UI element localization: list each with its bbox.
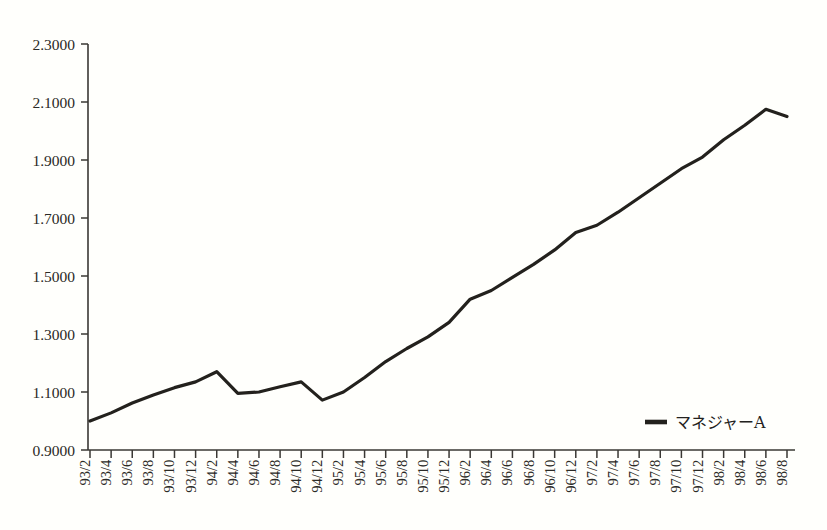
x-tick-label: 97/10 <box>668 460 684 493</box>
x-tick-label: 95/4 <box>352 459 368 486</box>
y-tick-label: 2.1000 <box>32 94 75 111</box>
x-tick-label: 96/10 <box>542 460 558 493</box>
x-tick-label: 94/8 <box>267 460 283 486</box>
x-tick-label: 98/2 <box>711 460 727 486</box>
chart-canvas: 0.90001.10001.30001.50001.70001.90002.10… <box>0 0 827 530</box>
x-tick-label: 96/12 <box>563 460 579 493</box>
x-tick-label: 96/8 <box>521 460 537 486</box>
x-tick-label: 97/8 <box>647 460 663 486</box>
x-tick-label: 97/4 <box>605 459 621 486</box>
x-tick-label: 93/10 <box>161 460 177 493</box>
y-tick-label: 1.1000 <box>32 384 75 401</box>
x-tick-label: 93/4 <box>98 459 114 486</box>
x-tick-label: 94/2 <box>204 460 220 486</box>
x-tick-label: 93/2 <box>77 460 93 486</box>
x-tick-label: 93/8 <box>140 460 156 486</box>
x-tick-label: 93/12 <box>183 460 199 493</box>
x-tick-label: 94/10 <box>288 460 304 493</box>
x-tick-label: 93/6 <box>119 460 135 486</box>
y-tick-label: 1.7000 <box>32 210 75 227</box>
x-tick-label: 94/12 <box>309 460 325 493</box>
x-tick-label: 98/8 <box>774 460 790 486</box>
x-tick-label: 95/10 <box>415 460 431 493</box>
y-tick-label: 2.3000 <box>32 36 75 53</box>
x-tick-label: 95/2 <box>330 460 346 486</box>
x-tick-label: 94/4 <box>225 459 241 486</box>
line-chart: 0.90001.10001.30001.50001.70001.90002.10… <box>0 0 827 530</box>
x-tick-label: 97/6 <box>626 460 642 486</box>
x-tick-label: 95/12 <box>436 460 452 493</box>
x-tick-label: 96/4 <box>478 459 494 486</box>
x-tick-label: 95/8 <box>394 460 410 486</box>
x-tick-label: 95/6 <box>373 460 389 486</box>
x-tick-label: 96/2 <box>457 460 473 486</box>
y-tick-label: 1.5000 <box>32 268 75 285</box>
x-tick-label: 97/2 <box>584 460 600 486</box>
x-tick-label: 97/12 <box>690 460 706 493</box>
y-tick-label: 0.9000 <box>32 442 75 459</box>
x-tick-label: 94/6 <box>246 460 262 486</box>
x-tick-label: 96/6 <box>499 460 515 486</box>
legend-label: マネジャーA <box>675 413 766 432</box>
x-tick-label: 98/6 <box>753 460 769 486</box>
y-tick-label: 1.9000 <box>32 152 75 169</box>
x-tick-label: 98/4 <box>732 459 748 486</box>
y-tick-label: 1.3000 <box>32 326 75 343</box>
